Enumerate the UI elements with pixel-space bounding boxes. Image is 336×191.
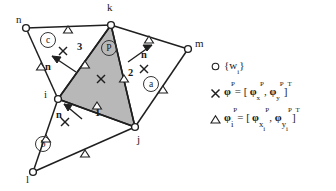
normal-arrowhead-c [52, 56, 61, 63]
element-label-c: c [40, 32, 56, 48]
figure-canvas: n k m i j l P a b c 1 2 3 n n n {wi} [0, 0, 336, 191]
node-label-m: m [195, 38, 204, 49]
node-label-l: l [26, 174, 29, 185]
normal-label-b: n [56, 110, 62, 121]
cross-marker-glyph [210, 88, 221, 99]
legend: {wi} φP= [ φxP, φyP]T φiP= [ φxiP, φyiP]… [206, 58, 334, 136]
triangle-marker-glyph [210, 114, 221, 125]
node-label-i: i [44, 89, 47, 100]
node-marker-i [55, 96, 62, 103]
circle-marker-glyph [211, 62, 220, 71]
cross-marker-a [140, 65, 148, 73]
node-marker-n [23, 25, 30, 32]
node-marker-k [108, 22, 115, 29]
node-marker-m [185, 46, 192, 53]
node-label-j: j [137, 134, 140, 145]
edge-number-1: 1 [95, 108, 100, 119]
legend-text-nodal-value: φiP= [ φxiP, φyiP]T [224, 110, 300, 125]
legend-text-nodes: {wi} [224, 58, 244, 71]
legend-row-nodes: {wi} [206, 58, 334, 78]
element-label-a: a [143, 76, 159, 92]
circle-marker-icon [206, 58, 224, 71]
cross-marker-b [61, 118, 69, 126]
legend-row-element-value: φP= [ φxP, φyP]T [206, 84, 334, 104]
triangle-marker-icon [206, 110, 224, 125]
cross-marker-c [59, 47, 67, 55]
edge-number-3: 3 [77, 42, 82, 53]
normal-label-a: n [141, 50, 147, 61]
element-label-b: b [35, 136, 51, 152]
cross-marker-icon [206, 84, 224, 99]
edge-number-2: 2 [128, 68, 133, 79]
element-label-P: P [101, 40, 117, 56]
node-label-n: n [16, 14, 22, 25]
node-marker-l [30, 169, 37, 176]
node-label-k: k [107, 2, 113, 13]
node-marker-j [132, 124, 139, 131]
legend-row-nodal-value: φiP= [ φxiP, φyiP]T [206, 110, 334, 130]
legend-text-element-value: φP= [ φxP, φyP]T [224, 84, 292, 97]
normal-label-c: n [45, 62, 51, 73]
